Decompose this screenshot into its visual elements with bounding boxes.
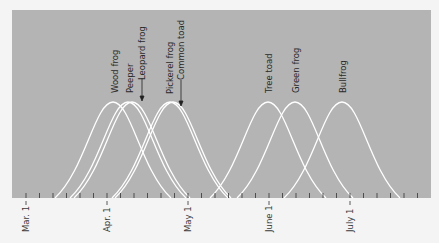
tick-label-jul: July 1 xyxy=(345,209,355,233)
label-leopard-frog: Leopard frog xyxy=(137,26,147,80)
month-ticks xyxy=(26,201,350,205)
tick-label-apr: Apr. 1 xyxy=(102,207,112,232)
label-common-toad: Common toad xyxy=(176,20,186,80)
label-green-frog: Green frog xyxy=(291,48,301,93)
tick-label-may: May 1 xyxy=(183,206,193,232)
label-peeper: Peeper xyxy=(125,63,135,93)
label-bullfrog: Bullfrog xyxy=(338,60,348,93)
label-tree-toad: Tree toad xyxy=(264,53,274,94)
frog-breeding-chart: Mar. 1 Apr. 1 May 1 June 1 July 1 Wood f… xyxy=(0,0,439,243)
tick-label-mar: Mar. 1 xyxy=(21,206,31,232)
label-pickerel-frog: Pickerel frog xyxy=(165,42,175,94)
tick-label-jun: June 1 xyxy=(264,205,274,233)
label-wood-frog: Wood frog xyxy=(110,50,120,93)
